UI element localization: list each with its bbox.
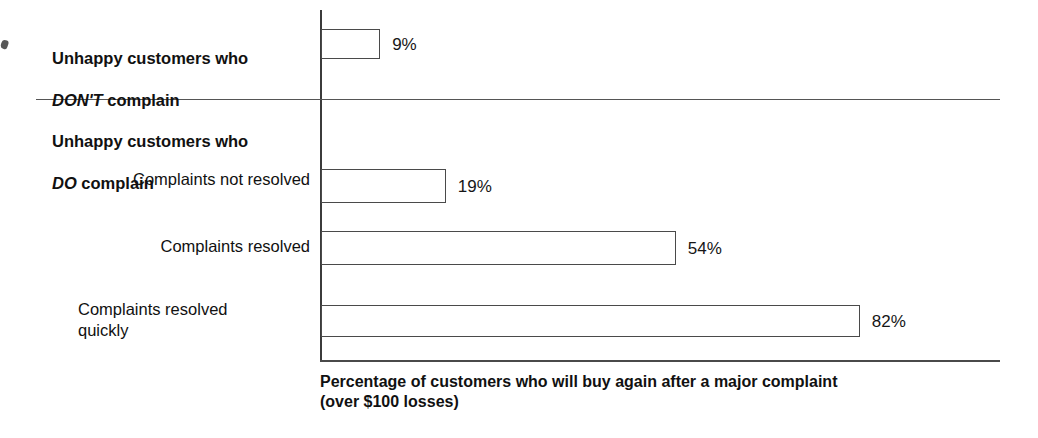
- bar-value-complaints-not-resolved: 19%: [458, 178, 492, 195]
- bar-complaints-resolved-quickly: [321, 305, 860, 337]
- category-label-complaints-resolved: Complaints resolved: [52, 236, 310, 257]
- bar-complaints-resolved: [321, 231, 676, 265]
- bar-value-complaints-resolved: 54%: [688, 240, 722, 257]
- group1-emphasis: DON'T: [52, 91, 103, 109]
- group2-line1: Unhappy customers who: [52, 132, 248, 150]
- bar-value-complaints-resolved-quickly: 82%: [872, 313, 906, 330]
- edge-artifact-speck: [0, 39, 9, 50]
- category-label-complaints-resolved-quickly: Complaints resolved quickly: [78, 299, 310, 341]
- group-heading-dont-complain: Unhappy customers who DON'T complain: [52, 27, 314, 111]
- category-label-complaints-not-resolved: Complaints not resolved: [52, 169, 310, 190]
- chart-caption: Percentage of customers who will buy aga…: [320, 372, 1020, 412]
- caption-line-1: Percentage of customers who will buy aga…: [320, 372, 1020, 392]
- group1-tail: complain: [103, 91, 180, 109]
- chart-container: Unhappy customers who DON'T complain Unh…: [0, 0, 1038, 438]
- bar-complaints-not-resolved: [321, 169, 446, 203]
- x-axis-line: [320, 360, 1000, 362]
- group1-line1: Unhappy customers who: [52, 49, 248, 67]
- bar-value-dont-complain: 9%: [392, 36, 417, 53]
- bar-dont-complain: [321, 29, 380, 59]
- caption-line-2: (over $100 losses): [320, 392, 1020, 412]
